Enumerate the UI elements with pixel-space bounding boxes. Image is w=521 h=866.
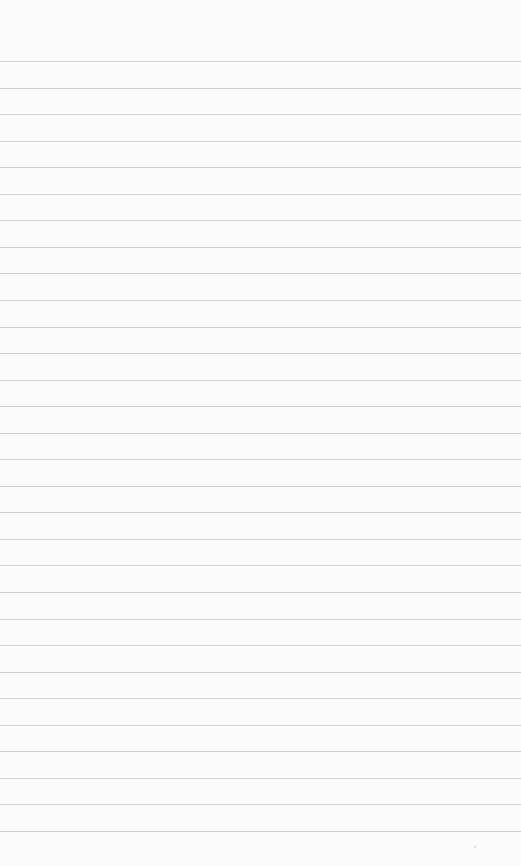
- ruled-line: [0, 804, 521, 805]
- ruled-line: [0, 406, 521, 407]
- ruled-line: [0, 300, 521, 301]
- ruled-line: [0, 353, 521, 354]
- ruled-line: [0, 194, 521, 195]
- ruled-line: [0, 273, 521, 274]
- ruled-line: [0, 619, 521, 620]
- ruled-line: [0, 141, 521, 142]
- ruled-line: [0, 645, 521, 646]
- ruled-line: [0, 220, 521, 221]
- ruled-line: [0, 539, 521, 540]
- ruled-line: [0, 61, 521, 62]
- ruled-line: [0, 167, 521, 168]
- ruled-line: [0, 380, 521, 381]
- ruled-line: [0, 751, 521, 752]
- ruled-line: [0, 565, 521, 566]
- ruled-line: [0, 88, 521, 89]
- paper-speck: [474, 846, 476, 848]
- ruled-line: [0, 433, 521, 434]
- ruled-line: [0, 725, 521, 726]
- lined-paper-sheet: [0, 0, 521, 866]
- ruled-line: [0, 778, 521, 779]
- ruled-line: [0, 486, 521, 487]
- ruled-line: [0, 592, 521, 593]
- ruled-line: [0, 327, 521, 328]
- ruled-line: [0, 831, 521, 832]
- ruled-line: [0, 698, 521, 699]
- ruled-line: [0, 672, 521, 673]
- ruled-line: [0, 512, 521, 513]
- ruled-line: [0, 114, 521, 115]
- ruled-line: [0, 247, 521, 248]
- ruled-line: [0, 459, 521, 460]
